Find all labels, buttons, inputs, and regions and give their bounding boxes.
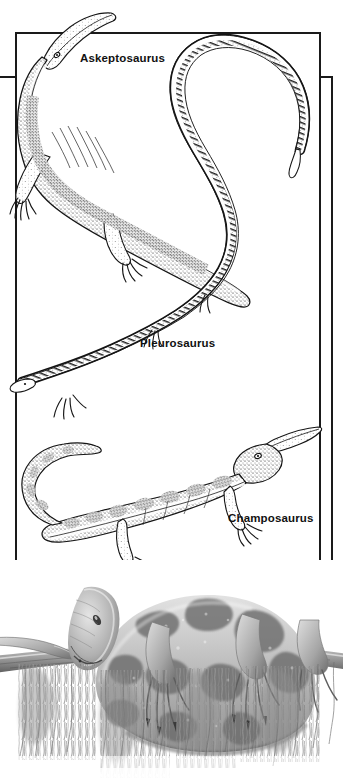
line-art-illustrations [0,0,343,620]
lizard-on-branch-illustration [0,560,343,784]
champosaurus-drawing [22,427,322,579]
species-label-pleurosaurus: Pleurosaurus [140,338,215,350]
species-label-askeptosaurus: Askeptosaurus [80,53,165,65]
figure-page: Askeptosaurus Pleurosaurus Champosaurus [0,0,343,784]
species-label-champosaurus: Champosaurus [228,513,314,525]
askeptosaurus-rear-foot [54,395,86,419]
